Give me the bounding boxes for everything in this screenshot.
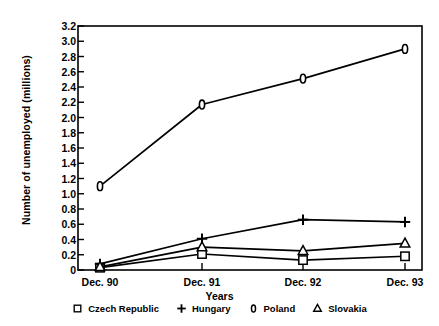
open-diamond-marker-icon bbox=[199, 100, 204, 109]
chart-legend: Czech RepublicHungaryPolandSlovakia bbox=[0, 303, 439, 314]
plus-marker-icon bbox=[177, 304, 185, 312]
x-axis-tick-label: Dec. 91 bbox=[167, 276, 237, 288]
open-diamond-marker-icon bbox=[402, 44, 407, 53]
open-square-marker-icon bbox=[299, 256, 307, 264]
legend-item-poland[interactable]: Poland bbox=[248, 303, 296, 314]
legend-label: Slovakia bbox=[328, 303, 367, 314]
open-triangle-marker-icon bbox=[197, 242, 207, 251]
series-hungary bbox=[95, 214, 410, 269]
x-axis-tick-label: Dec. 90 bbox=[65, 276, 135, 288]
legend-label: Hungary bbox=[192, 303, 231, 314]
open-diamond-marker-icon bbox=[300, 74, 305, 83]
plus-marker-icon bbox=[298, 214, 308, 224]
x-axis-tick-label: Dec. 93 bbox=[370, 276, 439, 288]
series-line bbox=[100, 49, 405, 186]
legend-label: Czech Republic bbox=[88, 303, 159, 314]
plus-marker-icon bbox=[400, 217, 410, 227]
legend-item-slovakia[interactable]: Slovakia bbox=[312, 303, 367, 314]
plus-marker-icon bbox=[176, 303, 187, 314]
open-square-marker-icon bbox=[401, 252, 409, 260]
x-axis-title: Years bbox=[0, 290, 439, 302]
open-triangle-marker-icon bbox=[314, 304, 322, 311]
series-line bbox=[100, 254, 405, 268]
open-square-marker-icon bbox=[74, 305, 81, 312]
open-triangle-marker-icon bbox=[312, 303, 323, 314]
open-diamond-marker-icon bbox=[251, 305, 255, 312]
open-triangle-marker-icon bbox=[400, 238, 410, 247]
plot-frame bbox=[78, 26, 422, 270]
series-poland bbox=[97, 44, 407, 190]
legend-item-czech-republic[interactable]: Czech Republic bbox=[72, 303, 159, 314]
legend-label: Poland bbox=[264, 303, 296, 314]
open-square-marker-icon bbox=[72, 303, 83, 314]
x-axis-tick-label: Dec. 92 bbox=[268, 276, 338, 288]
series-line bbox=[100, 243, 405, 267]
chart-figure: Number of unemployed (millions) 00.20.40… bbox=[0, 0, 439, 326]
open-diamond-marker-icon bbox=[97, 182, 102, 191]
open-diamond-marker-icon bbox=[248, 303, 259, 314]
legend-item-hungary[interactable]: Hungary bbox=[176, 303, 231, 314]
